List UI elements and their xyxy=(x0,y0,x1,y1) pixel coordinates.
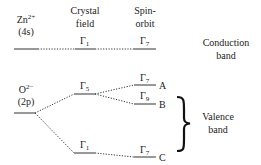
level-tag-b: B xyxy=(159,99,166,110)
valence-brace-icon xyxy=(177,97,190,151)
connector xyxy=(95,153,134,157)
spin-orbit-header-1: Spin- xyxy=(122,5,168,16)
cf-gamma1-valence-label: Γ1 xyxy=(80,140,89,153)
crystal-field-header-1: Crystal xyxy=(62,5,108,16)
connector xyxy=(95,94,134,104)
valence-band-label-1: Valence xyxy=(194,111,242,122)
so-gamma7-a-label: Γ7 xyxy=(140,73,149,86)
o-label: O2− xyxy=(12,82,40,95)
connector xyxy=(95,85,134,94)
energy-level-diagram: Zn2+ (4s) Crystal field Spin- orbit Γ1 Γ… xyxy=(0,0,261,165)
spin-orbit-header-2: orbit xyxy=(122,18,168,29)
so-gamma7-conduction-label: Γ7 xyxy=(140,36,149,49)
conduction-band-label-1: Conduction xyxy=(196,37,256,48)
cf-gamma1-conduction-label: Γ1 xyxy=(80,36,89,49)
level-tag-c: C xyxy=(159,152,166,163)
level-tag-a: A xyxy=(159,80,166,91)
connector xyxy=(35,113,74,153)
crystal-field-header-2: field xyxy=(62,18,108,29)
conduction-band-label-2: band xyxy=(196,50,256,61)
connector xyxy=(35,94,74,113)
zn-orbital: (4s) xyxy=(12,26,40,37)
cf-gamma5-label: Γ5 xyxy=(80,81,89,94)
o-orbital: (2p) xyxy=(12,96,40,107)
so-gamma7-c-label: Γ7 xyxy=(140,145,149,158)
zn-label: Zn2+ xyxy=(12,12,40,25)
valence-band-label-2: band xyxy=(194,124,242,135)
so-gamma9-b-label: Γ9 xyxy=(140,91,149,104)
